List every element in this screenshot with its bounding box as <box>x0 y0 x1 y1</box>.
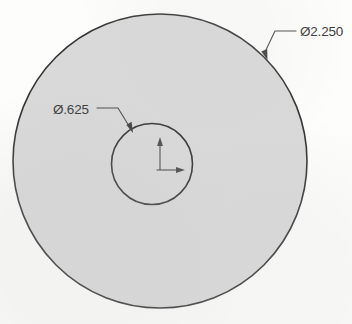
inner-bore-circle <box>112 124 193 205</box>
bore-diameter-label: Ø.625 <box>53 102 89 117</box>
technical-drawing: Ø2.250 Ø.625 <box>0 0 352 324</box>
cad-drawing-canvas: Ø2.250 Ø.625 <box>0 0 352 324</box>
outer-diameter-label: Ø2.250 <box>300 24 343 39</box>
outer-diameter-leader <box>261 31 296 60</box>
outer-diameter-leader-line <box>265 31 297 53</box>
